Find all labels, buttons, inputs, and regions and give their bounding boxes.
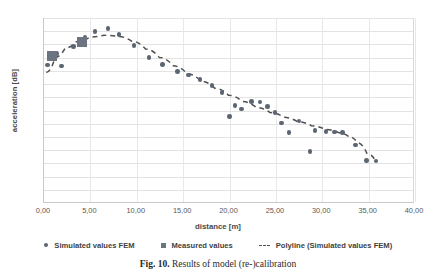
x-tick-label: 25,00 [255,206,295,215]
data-point-simulated [106,26,111,31]
legend-square-icon [161,243,166,248]
data-point-simulated [324,129,329,134]
data-point-measured [77,37,87,47]
x-tick-label: 15,00 [162,206,202,215]
x-tick-label: 0,00 [23,206,63,215]
data-point-simulated [332,130,337,135]
x-tick-label: 40,00 [394,206,434,215]
data-point-simulated [59,64,64,69]
data-point-simulated [273,110,278,115]
data-point-simulated [71,44,76,49]
x-axis-title: distance [m] [0,222,436,231]
data-point-simulated [186,73,191,78]
gridline-vertical [415,18,416,202]
data-point-simulated [233,103,238,108]
legend-label: Simulated values FEM [54,241,134,250]
caption-text: Results of model (re-)calibration [172,259,296,269]
data-point-simulated [227,114,232,119]
data-point-simulated [45,63,50,68]
x-tick-label: 30,00 [301,206,341,215]
figure-container: acceleration [dB] 0510152025303540455055… [0,0,436,269]
data-point-simulated [147,55,152,60]
trend-polyline [44,18,413,202]
data-point-simulated [313,128,318,133]
data-point-simulated [93,29,98,34]
chart-legend: Simulated values FEMMeasured valuesPolyl… [0,238,436,252]
data-point-simulated [175,69,180,74]
caption-figure-number: Fig. 10. [140,259,170,269]
data-point-simulated [210,83,215,88]
x-tick-label: 20,00 [209,206,249,215]
legend-dot-icon [44,243,49,248]
data-point-simulated [340,130,345,135]
data-point-simulated [353,143,358,148]
data-point-simulated [198,77,203,82]
legend-item: Measured values [161,241,233,250]
y-axis-title: acceleration [dB] [10,41,19,161]
legend-item: Simulated values FEM [44,241,135,250]
data-point-measured [47,51,57,61]
figure-caption: Fig. 10. Results of model (re-)calibrati… [0,259,436,269]
legend-label: Polyline (Simulated values FEM) [276,241,392,250]
plot-area [43,18,414,203]
data-point-simulated [265,104,270,109]
data-point-simulated [287,130,292,135]
x-tick-label: 35,00 [348,206,388,215]
legend-dash-icon [259,245,270,246]
x-tick-label: 5,00 [69,206,109,215]
legend-item: Polyline (Simulated values FEM) [259,241,392,250]
x-tick-label: 10,00 [116,206,156,215]
legend-label: Measured values [172,241,233,250]
